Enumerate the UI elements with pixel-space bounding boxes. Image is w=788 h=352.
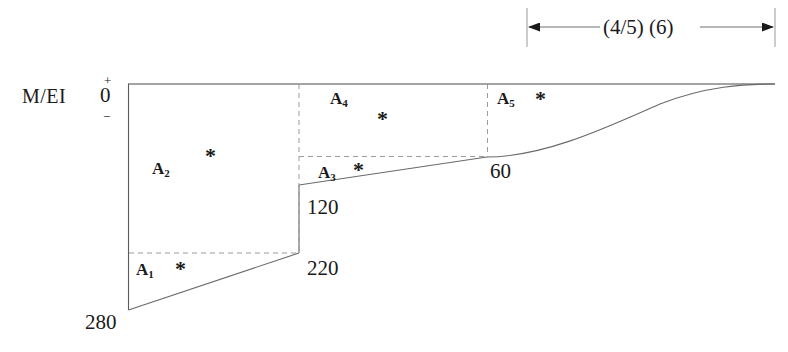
area-label-a3-subscript: 3: [330, 171, 336, 183]
area-label-a1: A1: [136, 261, 154, 278]
area-label-a4: A4: [330, 90, 348, 107]
area-label-a3: A3: [318, 164, 336, 181]
centroid-marker-a1: *: [175, 258, 186, 280]
area-label-a1-subscript: 1: [148, 268, 154, 280]
area-label-a1-text: A: [136, 260, 148, 279]
axis-zero-label: 0: [100, 85, 111, 106]
axis-negative-sign: −: [103, 110, 110, 123]
area-label-a2-subscript: 2: [164, 167, 170, 179]
dimension-text: (4/5) (6): [603, 17, 674, 38]
boundary-a1-bottom: [129, 253, 300, 310]
area-label-a2-text: A: [152, 159, 164, 178]
area-label-a5: A5: [497, 90, 515, 107]
boundary-a5-curve: [487, 84, 775, 157]
centroid-marker-a5: *: [535, 88, 546, 110]
area-label-a4-text: A: [330, 89, 342, 108]
area-label-a4-subscript: 4: [342, 97, 348, 109]
diagram-canvas: [0, 0, 788, 352]
ordinate-value-220: 220: [307, 258, 339, 279]
area-label-a5-subscript: 5: [509, 97, 515, 109]
ordinate-value-280: 280: [85, 312, 117, 333]
centroid-marker-a3: *: [353, 159, 364, 181]
ordinate-value-60: 60: [490, 161, 511, 182]
centroid-marker-a2: *: [205, 145, 216, 167]
ordinate-value-120: 120: [307, 197, 339, 218]
area-label-a2: A2: [152, 160, 170, 177]
area-label-a5-text: A: [497, 89, 509, 108]
moment-diagram-figure: M/EI + 0 − (4/5) (6) A1 * A2 * A3 * A4 *…: [0, 0, 788, 352]
area-label-a3-text: A: [318, 163, 330, 182]
centroid-marker-a4: *: [377, 108, 388, 130]
axis-quantity-label: M/EI: [22, 86, 66, 106]
